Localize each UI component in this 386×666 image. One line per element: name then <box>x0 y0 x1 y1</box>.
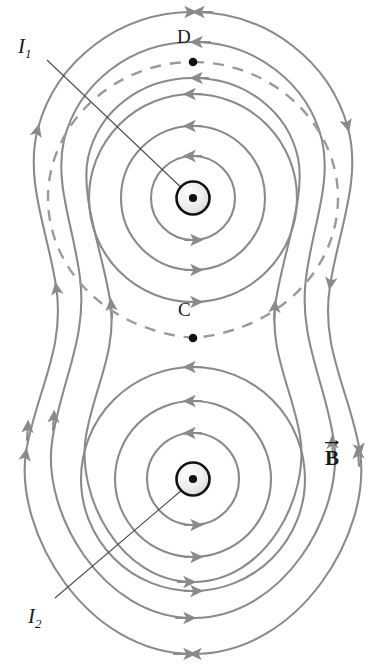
label-point-c: C <box>178 299 191 321</box>
label-point-d: D <box>177 26 191 48</box>
label-current-i1: I1 <box>18 34 32 62</box>
wire-bottom-current-out-of-page-icon <box>177 463 210 496</box>
label-current-i2: I2 <box>28 604 42 632</box>
field-lines-group <box>25 12 362 654</box>
label-bfield-vector: B <box>325 446 339 470</box>
outer-contour-3 <box>85 78 302 582</box>
magnetic-field-diagram <box>0 0 386 666</box>
point-d-dot <box>189 58 198 67</box>
vector-arrow-icon <box>325 438 340 445</box>
wire-top-current-out-of-page-icon <box>177 182 210 215</box>
point-c-dot <box>189 334 198 343</box>
